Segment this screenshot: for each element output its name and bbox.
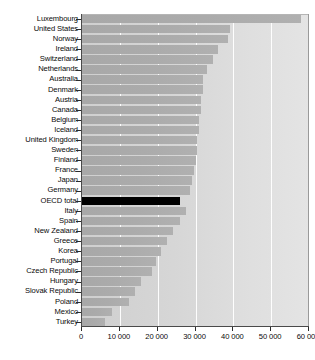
bar: [82, 227, 173, 235]
category-label: Portugal: [0, 257, 78, 265]
x-axis-tick-label: 60 000: [297, 332, 315, 341]
bar: [82, 25, 230, 33]
x-axis-tick: [232, 327, 233, 331]
category-label: Poland: [0, 298, 78, 306]
bar: [82, 176, 192, 184]
bar-row: [82, 45, 309, 53]
category-label: Germany: [0, 186, 78, 194]
x-axis-tick: [157, 327, 158, 331]
category-label: Turkey: [0, 318, 78, 326]
bar-row: [82, 197, 309, 205]
category-label: France: [0, 166, 78, 174]
category-label: Spain: [0, 217, 78, 225]
x-axis-tick: [119, 327, 120, 331]
bar-row: [82, 277, 309, 285]
bar-row: [82, 35, 309, 43]
x-axis-tick-label: 50 000: [259, 332, 282, 341]
bar: [82, 257, 156, 265]
category-label: Iceland: [0, 126, 78, 134]
bar: [82, 96, 201, 104]
bar-row: [82, 257, 309, 265]
bar-row: [82, 136, 309, 144]
category-label-column: LuxembourgUnited StatesNorwayIrelandSwit…: [0, 14, 78, 327]
category-label: Denmark: [0, 86, 78, 94]
category-label: Korea: [0, 247, 78, 255]
bar-row: [82, 65, 309, 73]
gridline: [309, 14, 310, 327]
bar: [82, 55, 213, 63]
category-label: Ireland: [0, 45, 78, 53]
category-label: OECD total: [0, 197, 78, 205]
x-axis-tick-label: 30 000: [183, 332, 206, 341]
category-label: Slovak Republic: [0, 287, 78, 295]
bar: [82, 207, 186, 215]
bar: [82, 136, 197, 144]
plot-border-right: [308, 14, 309, 327]
bar: [82, 106, 201, 114]
category-label: Austria: [0, 96, 78, 104]
category-label: United Kingdom: [0, 136, 78, 144]
category-label: Hungary: [0, 277, 78, 285]
bar: [82, 287, 135, 295]
x-axis-tick-label: 0: [79, 332, 83, 341]
x-axis-tick: [195, 327, 196, 331]
bar-row: [82, 217, 309, 225]
category-label: Mexico: [0, 308, 78, 316]
bar-row: [82, 106, 309, 114]
category-label: United States: [0, 25, 78, 33]
bar: [82, 126, 199, 134]
category-label: Norway: [0, 35, 78, 43]
bar-row: [82, 247, 309, 255]
bar: [82, 45, 218, 53]
bar-row: [82, 126, 309, 134]
bar: [82, 298, 129, 306]
bar: [82, 85, 203, 93]
bar-row: [82, 287, 309, 295]
category-label: Netherlands: [0, 65, 78, 73]
bar-row: [82, 25, 309, 33]
bar-row: [82, 75, 309, 83]
x-axis-tick-label: 20 000: [145, 332, 168, 341]
x-axis-tick: [81, 327, 82, 331]
bar: [82, 277, 141, 285]
bar-chart: LuxembourgUnited StatesNorwayIrelandSwit…: [0, 0, 315, 360]
bar-row: [82, 166, 309, 174]
category-label: Italy: [0, 207, 78, 215]
category-label: Greece: [0, 237, 78, 245]
bar-row: [82, 318, 309, 326]
x-axis-tick: [308, 327, 309, 331]
category-label: Switzerland: [0, 55, 78, 63]
bar-row: [82, 85, 309, 93]
bar-row: [82, 308, 309, 316]
bar: [82, 146, 197, 154]
bar: [82, 15, 301, 23]
bar-row: [82, 207, 309, 215]
category-label: Luxembourg: [0, 15, 78, 23]
bar-row: [82, 116, 309, 124]
bar-row: [82, 227, 309, 235]
x-axis-tick: [270, 327, 271, 331]
x-axis-tick-label: 40 000: [221, 332, 244, 341]
category-label: Finland: [0, 156, 78, 164]
bar-row: [82, 176, 309, 184]
bar: [82, 65, 207, 73]
bar: [82, 318, 105, 326]
bar-row: [82, 55, 309, 63]
bar-row: [82, 156, 309, 164]
bar-row: [82, 298, 309, 306]
bar: [82, 247, 161, 255]
x-axis-tick-label: 10 000: [108, 332, 131, 341]
bar: [82, 35, 228, 43]
bar: [82, 217, 180, 225]
category-label: Belgium: [0, 116, 78, 124]
bar: [82, 116, 199, 124]
bar-row: [82, 267, 309, 275]
bar: [82, 237, 167, 245]
bar-row: [82, 237, 309, 245]
category-label: Japan: [0, 176, 78, 184]
category-label: Czech Republic: [0, 267, 78, 275]
category-label: Sweden: [0, 146, 78, 154]
bar-highlight: [82, 197, 180, 205]
category-label: New Zealand: [0, 227, 78, 235]
bar: [82, 186, 190, 194]
